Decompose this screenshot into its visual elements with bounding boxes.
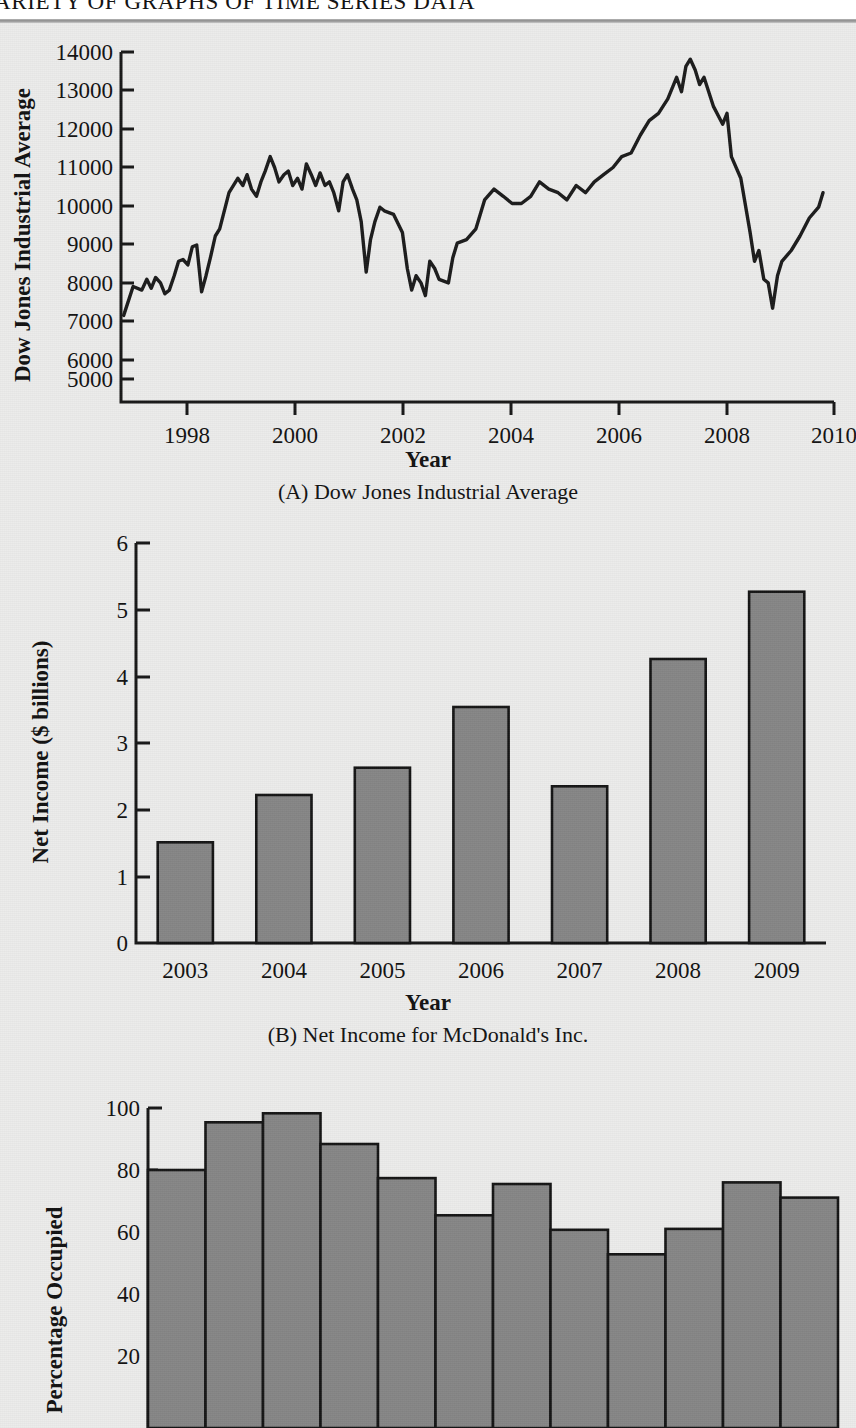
bar-month-10 [666,1229,724,1428]
mcdonalds-bar-group [158,592,805,943]
bar-2006 [453,707,508,943]
bar-2005 [355,768,410,943]
bar-month-9 [608,1254,666,1428]
figure-percentage-occupied: Percentage Occupied 100 80 60 40 20 [0,1060,856,1428]
svg-text:6: 6 [117,531,129,556]
page-running-head: A VARIETY OF GRAPHS OF TIME SERIES DATA [0,0,856,16]
bar-month-5 [378,1178,436,1428]
svg-text:60: 60 [117,1220,140,1245]
x-axis-ticks-a [187,402,834,415]
svg-text:0: 0 [117,931,129,956]
figure-b-xlabel: Year [0,990,856,1016]
svg-text:1998: 1998 [164,423,210,448]
svg-text:2: 2 [117,798,129,823]
svg-text:2006: 2006 [596,423,642,448]
svg-text:40: 40 [117,1282,140,1307]
svg-text:9000: 9000 [67,232,113,257]
bar-month-11 [723,1182,781,1428]
page-body: Dow Jones Industrial Average 14000 13000… [0,23,856,1428]
figure-dow-jones: Dow Jones Industrial Average 14000 13000… [0,23,856,488]
x-tick-label-2009: 2009 [754,958,800,983]
dow-jones-plot: Dow Jones Industrial Average 14000 13000… [0,23,856,448]
svg-text:5: 5 [117,598,129,623]
svg-text:14000: 14000 [56,40,114,65]
bar-month-1 [148,1170,206,1428]
svg-text:10000: 10000 [56,194,114,219]
running-head-text: A VARIETY OF GRAPHS OF TIME SERIES DATA [0,0,475,15]
figure-a-xlabel: Year [0,447,856,473]
svg-text:11000: 11000 [56,155,113,180]
svg-text:4: 4 [117,665,129,690]
x-tick-label-2004: 2004 [261,958,308,983]
bar-month-8 [551,1230,609,1428]
svg-text:2008: 2008 [704,423,750,448]
y-axis-title-c: Percentage Occupied [42,1206,67,1413]
svg-text:13000: 13000 [56,78,114,103]
svg-text:80: 80 [117,1158,140,1183]
y-axis-labels-a: 14000 13000 12000 11000 10000 9000 8000 … [56,40,114,392]
dow-jones-series-line [124,59,823,315]
svg-text:3: 3 [117,731,129,756]
bar-month-7 [493,1184,551,1428]
bar-2007 [552,786,607,943]
y-axis-labels-b: 6 5 4 3 2 1 0 [117,531,129,956]
svg-text:7000: 7000 [67,309,113,334]
bar-month-12 [781,1198,839,1428]
x-axis-labels-b: 2003200420052006200720082009 [162,958,799,983]
x-tick-label-2006: 2006 [458,958,504,983]
svg-text:2010: 2010 [811,423,856,448]
percentage-occupied-bar-group [148,1113,838,1428]
figure-mcdonalds-net-income: Net Income ($ billions) 6 5 4 3 2 1 0 [0,502,856,1032]
bar-month-4 [321,1144,379,1428]
svg-text:12000: 12000 [56,117,114,142]
percentage-occupied-plot: Percentage Occupied 100 80 60 40 20 [0,1060,856,1428]
svg-text:2004: 2004 [488,423,535,448]
bar-month-3 [263,1113,321,1428]
figure-b-caption: (B) Net Income for McDonald's Inc. [0,1022,856,1048]
bar-2008 [651,659,706,943]
bar-month-2 [206,1122,264,1428]
x-tick-label-2005: 2005 [359,958,405,983]
bar-2009 [749,592,804,943]
svg-text:2002: 2002 [380,423,426,448]
x-tick-label-2003: 2003 [162,958,208,983]
bar-month-6 [436,1215,494,1428]
svg-text:20: 20 [117,1344,140,1369]
y-axis-ticks-a [121,52,134,379]
x-axis-labels-a: 1998 2000 2002 2004 2006 2008 2010 [164,423,856,448]
bar-2004 [256,795,311,943]
svg-text:1: 1 [117,865,129,890]
svg-text:2000: 2000 [272,423,318,448]
mcdonalds-net-income-plot: Net Income ($ billions) 6 5 4 3 2 1 0 [0,502,856,992]
svg-text:100: 100 [106,1096,141,1121]
y-axis-labels-c: 100 80 60 40 20 [106,1096,141,1369]
bar-2003 [158,842,213,943]
x-tick-label-2007: 2007 [557,958,603,983]
y-axis-ticks-b [136,543,150,877]
svg-text:8000: 8000 [67,271,113,296]
svg-text:5000: 5000 [67,367,113,392]
y-axis-title-b: Net Income ($ billions) [28,641,53,864]
y-axis-title-a: Dow Jones Industrial Average [10,88,35,382]
x-tick-label-2008: 2008 [655,958,701,983]
